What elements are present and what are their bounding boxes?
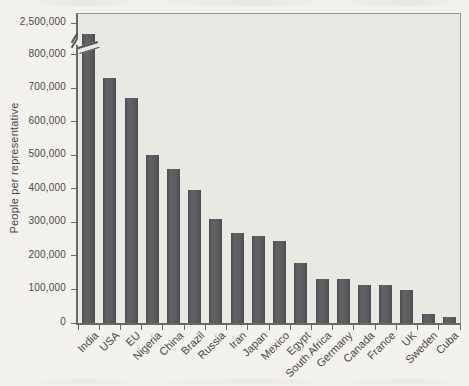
y-tick-label: 500,000 bbox=[0, 148, 66, 160]
y-tick-label: 100,000 bbox=[0, 282, 66, 294]
bar-egypt bbox=[294, 263, 307, 323]
x-tick-mark bbox=[205, 325, 206, 330]
x-tick-mark bbox=[460, 325, 461, 330]
x-tick-mark bbox=[396, 325, 397, 330]
x-tick-mark bbox=[247, 325, 248, 330]
x-tick-mark bbox=[417, 325, 418, 330]
y-tick-label: 800,000 bbox=[0, 48, 66, 60]
y-tick-mark bbox=[71, 222, 76, 223]
y-tick-mark bbox=[71, 23, 76, 24]
bar-canada bbox=[358, 285, 371, 323]
x-tick-mark bbox=[184, 325, 185, 330]
y-tick-mark bbox=[71, 255, 76, 256]
bar-uk bbox=[400, 290, 413, 323]
bar-eu bbox=[125, 98, 138, 323]
scan-artifact-bottom bbox=[0, 379, 469, 384]
scan-artifact-top bbox=[0, 0, 469, 6]
y-tick-label: 400,000 bbox=[0, 182, 66, 194]
y-tick-label: 200,000 bbox=[0, 249, 66, 261]
y-tick-mark bbox=[71, 323, 76, 324]
x-tick-label: Cuba bbox=[434, 329, 461, 356]
x-tick-mark bbox=[162, 325, 163, 330]
bar-iran bbox=[231, 233, 244, 323]
y-tick-mark bbox=[71, 289, 76, 290]
x-tick-mark bbox=[332, 325, 333, 330]
x-tick-label: India bbox=[75, 329, 100, 354]
bar-chart-figure: People per representative IndiaUSAEUNige… bbox=[0, 0, 469, 386]
bar-russia bbox=[209, 219, 222, 323]
bar-brazil bbox=[188, 190, 201, 323]
x-tick-mark bbox=[269, 325, 270, 330]
plot-area bbox=[76, 13, 461, 325]
x-tick-mark bbox=[226, 325, 227, 330]
y-tick-mark bbox=[71, 88, 76, 89]
x-tick-mark bbox=[311, 325, 312, 330]
x-tick-mark bbox=[141, 325, 142, 330]
y-tick-label: 700,000 bbox=[0, 81, 66, 93]
bar-india bbox=[82, 34, 95, 323]
x-tick-mark bbox=[290, 325, 291, 330]
x-tick-mark bbox=[438, 325, 439, 330]
bar-mexico bbox=[273, 241, 286, 323]
y-tick-mark bbox=[71, 188, 76, 189]
x-tick-mark bbox=[353, 325, 354, 330]
y-tick-mark bbox=[71, 155, 76, 156]
y-tick-label: 300,000 bbox=[0, 215, 66, 227]
x-tick-mark bbox=[78, 325, 79, 330]
y-tick-label: 0 bbox=[0, 316, 66, 328]
x-tick-mark bbox=[99, 325, 100, 330]
bar-germany bbox=[337, 279, 350, 323]
bar-japan bbox=[252, 236, 265, 323]
y-tick-mark bbox=[71, 121, 76, 122]
x-tick-mark bbox=[375, 325, 376, 330]
bar-sweden bbox=[422, 314, 435, 323]
bar-france bbox=[379, 285, 392, 323]
bar-south-africa bbox=[316, 279, 329, 323]
bar-nigeria bbox=[146, 155, 159, 323]
bar-cuba bbox=[443, 317, 456, 323]
bar-usa bbox=[103, 78, 116, 323]
x-tick-label: USA bbox=[97, 329, 121, 353]
bar-china bbox=[167, 169, 180, 323]
x-tick-mark bbox=[120, 325, 121, 330]
y-tick-mark bbox=[71, 54, 76, 55]
y-tick-label-break: 2,500,000 bbox=[0, 16, 66, 28]
y-tick-label: 600,000 bbox=[0, 115, 66, 127]
